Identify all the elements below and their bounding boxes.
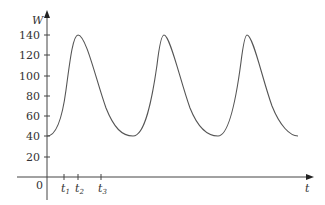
y-tick-label: 100 [19,70,40,83]
y-tick-label: 20 [26,151,40,164]
x-tick-label-t3: t3 [98,182,107,196]
x-axis-label: t [305,182,310,195]
chart: 140 120 100 80 60 40 20 W t 0 t1 t2 t3 [0,0,325,205]
y-tick-label: 40 [26,130,40,143]
x-tick-label-t1: t1 [61,182,70,196]
y-tick-label: 120 [19,49,40,62]
data-line [47,35,298,136]
x-axis-arrow-icon [306,174,314,180]
y-tick-label: 60 [26,110,40,123]
y-tick-label: 80 [26,90,40,103]
x-tick-label-t2: t2 [75,182,84,196]
origin-label: 0 [36,179,43,192]
y-axis-label: W [32,14,45,27]
y-axis-arrow-icon [44,10,50,18]
y-tick-label: 140 [19,29,40,42]
